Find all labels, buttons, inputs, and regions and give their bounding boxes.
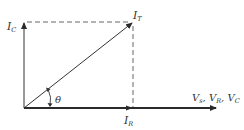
- phasor-diagram: IC IT IR θ Vs, VR, VC: [0, 0, 244, 130]
- ir-arrowhead-icon: [126, 106, 133, 111]
- it-label: IT: [132, 9, 142, 23]
- ic-label: IC: [6, 20, 16, 34]
- theta-label: θ: [55, 94, 61, 105]
- theta-arrowhead-bottom-icon: [48, 103, 53, 107]
- voltage-axis-label: Vs, VR, VC: [192, 92, 240, 105]
- it-phasor-arrow: [24, 23, 132, 108]
- ir-label: IR: [123, 114, 133, 128]
